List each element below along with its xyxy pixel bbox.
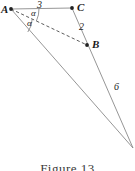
figure-caption: Figure 13 — [0, 161, 135, 171]
vertex-label-a: A — [1, 4, 8, 15]
vertex-label-b: B — [92, 39, 99, 50]
length-label-ac: 3 — [37, 0, 42, 10]
length-label-cb: 2 — [79, 22, 84, 32]
angle-label-lower: α — [27, 19, 32, 28]
vertex-dot-C — [70, 6, 74, 10]
length-label-bd: 6 — [114, 82, 119, 92]
vertex-dot-A — [9, 7, 13, 11]
geometry-figure: A C B 3 2 6 α α Figure 13 — [0, 0, 135, 171]
vertex-label-c: C — [77, 2, 84, 13]
angle-label-upper: α — [31, 9, 36, 18]
angle-arc-upper — [36, 9, 39, 22]
segment-ab-dashed — [11, 9, 87, 45]
vertex-dot-B — [85, 43, 89, 47]
